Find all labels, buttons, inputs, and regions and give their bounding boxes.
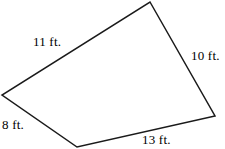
side-label-left-lower: 8 ft. <box>2 118 24 131</box>
side-label-right: 10 ft. <box>191 49 220 62</box>
quadrilateral-shape <box>0 0 225 149</box>
side-label-bottom: 13 ft. <box>142 133 171 146</box>
quadrilateral-outline <box>2 2 215 147</box>
side-label-left-upper: 11 ft. <box>33 35 61 48</box>
geometry-figure: 11 ft. 10 ft. 13 ft. 8 ft. <box>0 0 225 149</box>
